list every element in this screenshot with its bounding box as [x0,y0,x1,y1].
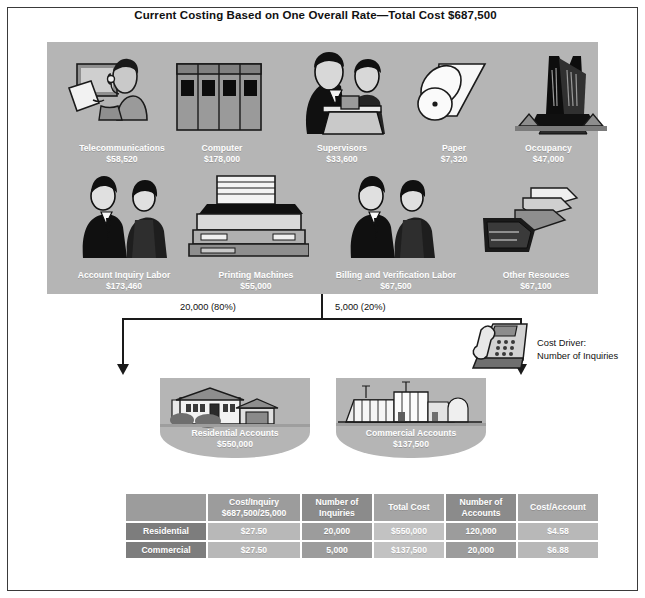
header-line-2: Inquiries [319,508,355,518]
table-header-number-of-accounts: Number of Accounts [446,494,516,521]
header-line-1: Number of [316,497,359,507]
table-header-number-of-inquiries: Number of Inquiries [302,494,372,521]
summary-table: Cost/Inquiry $687,500/25,000 Number of I… [124,492,600,560]
flow-stem [321,294,323,319]
office-building-icon [515,48,607,140]
resource-name: Supervisors [317,143,367,153]
cell-cost-per-account: $6.88 [518,542,598,559]
resource-pool: Telecommunications $58,520 Computer $178… [47,42,598,294]
cost-object-name: Residential Accounts [191,428,278,438]
resource-name: Paper [442,143,466,153]
table-header-total-cost: Total Cost [374,494,444,521]
row-label-commercial: Commercial [126,542,206,559]
folders-icon [479,186,581,258]
two-people-icon [343,174,439,260]
header-line-2: $687,500/25,000 [222,508,287,518]
header-line-1: Cost/Inquiry [229,497,279,507]
resource-label-occupancy: Occupancy $47,000 [499,143,598,164]
flow-label-left: 20,000 (80%) [180,302,236,312]
cell-number-of-accounts: 20,000 [446,542,516,559]
resource-amount: $173,460 [47,281,201,292]
resource-name: Account Inquiry Labor [78,270,171,280]
cost-object-label-commercial: Commercial Accounts $137,500 [336,428,486,449]
supervisors-icon [285,46,395,138]
cell-total-cost: $550,000 [374,523,444,540]
flow-left-drop [122,318,124,366]
header-line-1: Number of [460,497,503,507]
cost-object-amount: $550,000 [217,439,253,449]
cost-driver-callout: Cost Driver: Number of Inquiries [537,337,618,362]
server-rack-icon [175,62,263,132]
resource-amount: $55,000 [193,281,319,292]
two-people-icon [75,174,171,260]
flow-left-arrowhead [117,364,129,375]
resource-name: Printing Machines [219,270,294,280]
printer-icon [187,170,309,264]
diagram-page: Current Costing Based on One Overall Rat… [0,0,645,598]
table-header-corner [126,494,206,521]
resource-name: Telecommunications [79,143,165,153]
resource-label-other-resources: Other Resouces $67,100 [477,270,595,291]
resource-label-account-inquiry-labor: Account Inquiry Labor $173,460 [47,270,201,291]
header-line-2: Total Cost [388,502,429,512]
cell-total-cost: $137,500 [374,542,444,559]
header-line-2: Cost/Account [530,502,586,512]
resource-label-computer: Computer $178,000 [159,143,285,164]
resource-amount: $7,320 [395,154,513,165]
table-header-cost-per-account: Cost/Account [518,494,598,521]
resource-label-supervisors: Supervisors $33,600 [279,143,405,164]
cell-cost-per-inquiry: $27.50 [208,542,300,559]
resource-amount: $33,600 [279,154,405,165]
table-row: Residential $27.50 20,000 $550,000 120,0… [126,523,598,540]
table-header-cost-per-inquiry: Cost/Inquiry $687,500/25,000 [208,494,300,521]
headset-operator-icon [65,54,149,138]
flow-crossbar [122,318,522,320]
table-row: Commercial $27.50 5,000 $137,500 20,000 … [126,542,598,559]
cost-object-name: Commercial Accounts [366,428,456,438]
row-label-residential: Residential [126,523,206,540]
resource-name: Occupancy [525,143,572,153]
telephone-icon [471,318,533,374]
cell-number-of-inquiries: 5,000 [302,542,372,559]
page-title: Current Costing Based on One Overall Rat… [8,9,623,21]
cell-cost-per-inquiry: $27.50 [208,523,300,540]
cost-driver-value: Number of Inquiries [537,351,618,361]
cost-object-label-residential: Residential Accounts $550,000 [160,428,310,449]
cell-number-of-inquiries: 20,000 [302,523,372,540]
resource-label-billing-and-verification-labor: Billing and Verification Labor $67,500 [311,270,481,291]
resource-amount: $67,500 [311,281,481,292]
header-line-2: Accounts [461,508,500,518]
resource-amount: $47,000 [499,154,598,165]
flow-label-right: 5,000 (20%) [335,302,386,312]
resource-label-paper: Paper $7,320 [395,143,513,164]
cost-driver-label: Cost Driver: [537,338,586,348]
cost-object-amount: $137,500 [393,439,429,449]
resource-amount: $67,100 [477,281,595,292]
resource-amount: $178,000 [159,154,285,165]
resource-name: Computer [202,143,243,153]
resource-label-printing-machines: Printing Machines $55,000 [193,270,319,291]
paper-roll-icon [413,56,495,132]
resource-name: Other Resouces [503,270,570,280]
resource-name: Billing and Verification Labor [336,270,456,280]
table-header-row: Cost/Inquiry $687,500/25,000 Number of I… [126,494,598,521]
cell-number-of-accounts: 120,000 [446,523,516,540]
cell-cost-per-account: $4.58 [518,523,598,540]
